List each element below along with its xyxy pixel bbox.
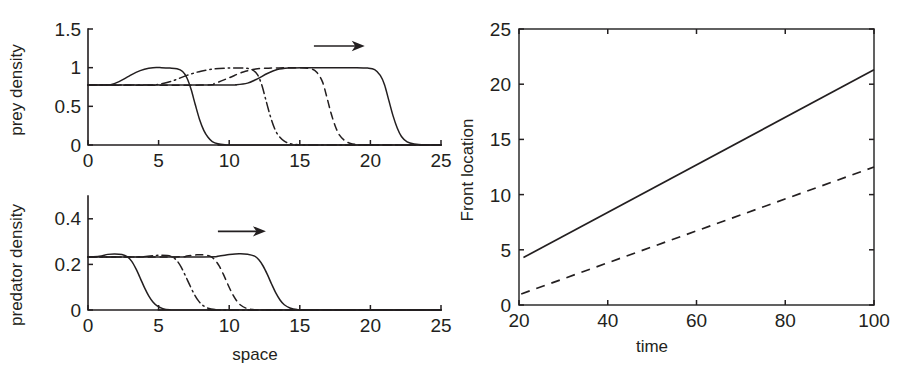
predator-axes: 051015202500.20.4 <box>55 196 452 336</box>
pred-x-ticklabel: 20 <box>360 315 381 336</box>
pred-curve <box>88 254 441 310</box>
pred-curve <box>88 254 441 310</box>
pred-x-ticklabel: 0 <box>83 315 94 336</box>
front-y-ticklabel: 0 <box>500 295 511 316</box>
front-trend-lines <box>521 70 874 294</box>
predator-x-axis-label: space <box>232 345 277 364</box>
prey-curve <box>88 68 441 145</box>
panel-prey-density: prey density 051015202500.511.5 <box>0 0 460 180</box>
prey-y-ticklabel: 1.5 <box>55 19 81 40</box>
prey-x-ticklabel: 20 <box>360 150 381 171</box>
front-axes: 204060801000510152025 <box>490 19 890 331</box>
front-y-axis-label: Front location <box>458 119 477 222</box>
predator-annotations <box>218 226 266 236</box>
pred-x-ticklabel: 15 <box>289 315 310 336</box>
front-y-ticklabel: 5 <box>500 240 511 261</box>
front-x-ticklabel: 20 <box>508 310 529 331</box>
prey-curves <box>88 68 441 146</box>
prey-x-ticklabel: 15 <box>289 150 310 171</box>
front-y-ticklabel: 25 <box>490 19 511 40</box>
pred-y-ticklabel: 0.4 <box>55 208 82 229</box>
prey-annotations <box>314 41 365 51</box>
predator-density-chart: predator density 051015202500.20.4 space <box>0 170 460 366</box>
front-x-ticklabel: 40 <box>597 310 618 331</box>
predator-curves <box>88 254 441 310</box>
front-plot-frame <box>519 29 874 305</box>
front-y-ticklabel: 10 <box>490 185 511 206</box>
front-trend-solid <box>523 70 874 258</box>
pred-y-ticklabel: 0 <box>70 300 81 321</box>
front-y-ticklabel: 20 <box>490 74 511 95</box>
front-x-ticklabel: 100 <box>858 310 890 331</box>
pred-x-ticklabel: 10 <box>219 315 240 336</box>
prey-y-ticklabel: 1 <box>70 57 81 78</box>
front-x-ticklabel: 60 <box>686 310 707 331</box>
pred-curve <box>88 255 441 310</box>
prey-y-axis-label: prey density <box>7 44 26 136</box>
pred-x-ticklabel: 5 <box>153 315 164 336</box>
panel-predator-density: predator density 051015202500.20.4 space <box>0 170 460 366</box>
front-location-chart: Front location 204060801000510152025 tim… <box>455 0 914 366</box>
prey-y-ticklabel: 0.5 <box>55 96 81 117</box>
predator-y-axis-label-group: predator density <box>7 204 26 326</box>
prey-x-ticklabel: 0 <box>83 150 94 171</box>
pred-axis-lines <box>88 196 441 310</box>
prey-curve <box>88 68 441 145</box>
front-y-axis-label-group: Front location <box>458 119 477 222</box>
prey-curve <box>88 68 441 145</box>
prey-density-chart: prey density 051015202500.511.5 <box>0 0 460 180</box>
pred-curve <box>88 255 441 310</box>
prey-y-ticklabel: 0 <box>70 135 81 156</box>
predator-y-axis-label: predator density <box>7 204 26 326</box>
prey-axes: 051015202500.511.5 <box>55 19 452 172</box>
prey-x-ticklabel: 5 <box>153 150 164 171</box>
front-x-axis-label: time <box>636 337 668 356</box>
prey-y-axis-label-group: prey density <box>7 44 26 136</box>
pred-y-ticklabel: 0.2 <box>55 254 81 275</box>
front-y-ticklabel: 15 <box>490 129 511 150</box>
panel-front-location: Front location 204060801000510152025 tim… <box>455 0 914 366</box>
prey-axis-lines <box>88 29 441 145</box>
pred-x-ticklabel: 25 <box>430 315 451 336</box>
front-x-ticklabel: 80 <box>775 310 796 331</box>
prey-curve <box>88 68 441 145</box>
figure-root: prey density 051015202500.511.5 predator… <box>0 0 914 366</box>
prey-x-ticklabel: 10 <box>219 150 240 171</box>
prey-x-ticklabel: 25 <box>430 150 451 171</box>
